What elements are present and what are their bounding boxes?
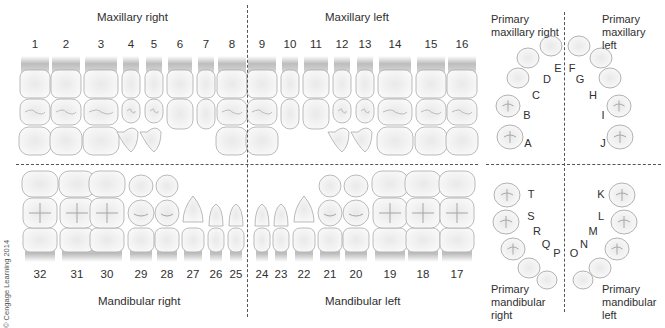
maxillary-crowns [19, 70, 478, 155]
primary-midline-divider [564, 12, 565, 312]
primary-tooth-letter: E [554, 62, 561, 74]
tooth-12 [333, 70, 351, 98]
tooth-number: 21 [324, 268, 337, 280]
tooth-4 [122, 70, 140, 98]
tooth-number: 9 [259, 38, 265, 50]
tooth-17 [440, 228, 474, 252]
tooth-number: 19 [384, 268, 397, 280]
tooth-number: 13 [359, 38, 372, 50]
primary-tooth-letter: M [588, 225, 597, 237]
primary-tooth-letter: A [524, 137, 531, 149]
tooth-number: 22 [298, 268, 311, 280]
tooth-number: 5 [151, 38, 157, 50]
tooth-28 [155, 228, 179, 252]
tooth-number: 12 [336, 38, 349, 50]
primary-tooth-letter: D [543, 73, 551, 85]
tooth-26 [208, 228, 224, 252]
tooth-number: 26 [210, 268, 223, 280]
primary-tooth-letter: K [597, 188, 604, 200]
tooth-number: 25 [230, 268, 243, 280]
primary-tooth-N [589, 258, 611, 278]
mandibular-crowns [22, 171, 475, 252]
primary-tooth-letter: B [523, 109, 530, 121]
primary-tooth-F [568, 36, 590, 56]
tooth-5 [145, 70, 163, 98]
tooth-27 [182, 228, 204, 252]
tooth-number: 6 [177, 38, 183, 50]
tooth-number: 1 [32, 38, 38, 50]
tooth-number: 3 [98, 38, 104, 50]
tooth-24 [254, 228, 270, 252]
tooth-25 [228, 228, 244, 252]
tooth-number: 24 [256, 268, 269, 280]
primary-tooth-letter: S [527, 210, 534, 222]
primary-tooth-letter: L [598, 210, 604, 222]
tooth-22 [293, 228, 315, 252]
primary-tooth-letter: N [580, 238, 588, 250]
primary-tooth-letter: I [601, 109, 604, 121]
primary-tooth-letter: C [532, 89, 540, 101]
tooth-number: 27 [187, 268, 200, 280]
copyright-notice: © Cengage Learning 2014 [2, 240, 11, 328]
tooth-23 [273, 228, 289, 252]
primary-tooth-letter: F [569, 62, 576, 74]
primary-tooth-H [599, 68, 621, 88]
primary-occlusal-divider [486, 164, 661, 165]
tooth-number: 30 [101, 268, 114, 280]
tooth-1 [20, 70, 50, 98]
tooth-11 [303, 70, 329, 98]
primary-maxillary-left-label: Primary maxillary left [602, 13, 662, 52]
tooth-21 [318, 228, 342, 252]
primary-tooth-letter: Q [542, 238, 551, 250]
tooth-2 [51, 70, 81, 98]
tooth-number: 18 [417, 268, 430, 280]
primary-mandibular-left-label: Primary mandibular left [602, 283, 662, 322]
tooth-15 [416, 70, 446, 98]
tooth-number: 8 [229, 38, 235, 50]
primary-tooth-E [540, 36, 562, 56]
primary-tooth-O [573, 271, 593, 289]
tooth-19 [373, 228, 407, 252]
tooth-14 [378, 70, 412, 98]
primary-tooth-D [517, 48, 539, 68]
tooth-16 [447, 70, 477, 98]
primary-tooth-Q [518, 258, 540, 278]
tooth-number: 23 [275, 268, 288, 280]
tooth-number: 16 [456, 38, 469, 50]
primary-tooth-letter: J [600, 137, 606, 149]
midline-divider [247, 5, 248, 317]
tooth-number: 28 [161, 268, 174, 280]
tooth-number: 17 [451, 268, 464, 280]
tooth-number: 32 [34, 268, 47, 280]
tooth-number: 31 [71, 268, 84, 280]
primary-tooth-letter: O [570, 247, 579, 259]
primary-tooth-letter: T [528, 188, 535, 200]
tooth-20 [343, 228, 369, 252]
tooth-number: 15 [425, 38, 438, 50]
primary-tooth-letter: H [589, 89, 597, 101]
primary-mandibular-right-label: Primary mandibular right [491, 283, 561, 322]
primary-teeth [493, 36, 637, 289]
tooth-10 [281, 70, 299, 98]
tooth-32 [23, 228, 57, 252]
tooth-29 [128, 228, 154, 252]
primary-tooth-C [507, 68, 529, 88]
tooth-number: 7 [203, 38, 209, 50]
tooth-number: 29 [135, 268, 148, 280]
primary-tooth-letter: G [576, 73, 585, 85]
tooth-6 [167, 70, 193, 98]
tooth-number: 10 [284, 38, 297, 50]
tooth-number: 11 [310, 38, 322, 50]
tooth-3 [84, 70, 118, 98]
tooth-9 [247, 70, 277, 98]
primary-tooth-letter: P [553, 247, 560, 259]
tooth-18 [406, 228, 440, 252]
primary-tooth-letter: R [533, 225, 541, 237]
tooth-number: 20 [350, 268, 363, 280]
tooth-number: 14 [389, 38, 402, 50]
tooth-13 [356, 70, 374, 98]
tooth-30 [90, 228, 124, 252]
occlusal-divider [16, 164, 478, 165]
tooth-7 [197, 70, 215, 98]
tooth-31 [60, 228, 94, 252]
